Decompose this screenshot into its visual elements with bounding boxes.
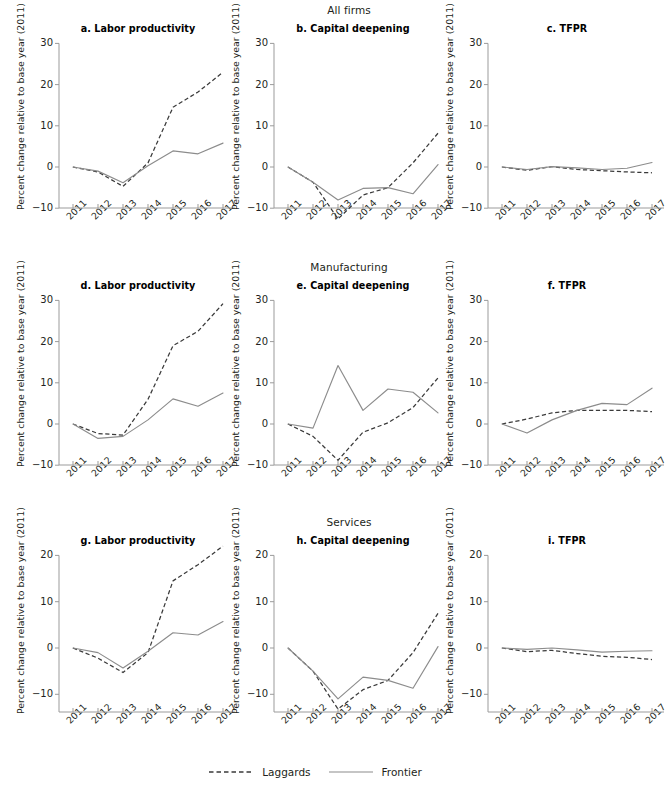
y-tick-label: −10 <box>28 688 53 699</box>
y-axis-label: Percent change relative to base year (20… <box>15 3 26 210</box>
x-tick-label: 2017 <box>643 701 668 726</box>
x-tick-label: 2012 <box>89 701 114 726</box>
y-tick-label: 0 <box>457 642 482 653</box>
x-tick-label: 2015 <box>164 197 189 222</box>
x-tick-label: 2011 <box>493 701 518 726</box>
legend-item-frontier: Frontier <box>327 767 422 778</box>
series-line-frontier <box>502 388 652 433</box>
y-tick-label: 10 <box>28 120 53 131</box>
series-line-laggards <box>73 304 223 435</box>
x-tick-label: 2015 <box>164 701 189 726</box>
y-tick-label: −10 <box>243 688 268 699</box>
x-tick-label: 2013 <box>543 454 568 479</box>
x-tick-label: 2011 <box>64 197 89 222</box>
y-axis-label: Percent change relative to base year (20… <box>15 260 26 467</box>
panel-title: i. TFPR <box>476 535 658 546</box>
series-line-laggards <box>502 410 652 424</box>
y-tick-label: 20 <box>457 336 482 347</box>
x-tick-label: 2014 <box>568 454 593 479</box>
x-tick-label: 2015 <box>593 197 618 222</box>
figure-legend: LaggardsFrontier <box>0 762 629 782</box>
y-tick-label: 0 <box>28 642 53 653</box>
y-tick-label: 20 <box>243 336 268 347</box>
x-tick-label: 2014 <box>354 701 379 726</box>
series-line-frontier <box>502 648 652 652</box>
x-tick-label: 2013 <box>114 197 139 222</box>
x-tick-label: 2014 <box>139 454 164 479</box>
y-tick-label: 10 <box>243 377 268 388</box>
x-tick-label: 2014 <box>139 197 164 222</box>
y-tick-label: −10 <box>28 202 53 213</box>
x-tick-label: 2014 <box>354 454 379 479</box>
x-tick-label: 2012 <box>518 454 543 479</box>
y-tick-label: 20 <box>28 79 53 90</box>
x-tick-label: 2013 <box>329 454 354 479</box>
x-tick-label: 2013 <box>329 701 354 726</box>
y-tick-label: 0 <box>28 418 53 429</box>
y-tick-label: 20 <box>28 549 53 560</box>
x-tick-label: 2016 <box>404 701 429 726</box>
panel-title: g. Labor productivity <box>47 535 229 546</box>
y-axis-label: Percent change relative to base year (20… <box>230 3 241 210</box>
series-line-laggards <box>73 72 223 186</box>
y-tick-label: 10 <box>243 120 268 131</box>
panel-title: c. TFPR <box>476 23 658 34</box>
x-tick-label: 2016 <box>618 197 643 222</box>
dashed-line-icon <box>207 768 255 776</box>
panel-title: b. Capital deepening <box>262 23 444 34</box>
x-tick-label: 2017 <box>429 454 454 479</box>
x-tick-label: 2015 <box>379 197 404 222</box>
x-tick-label: 2017 <box>429 701 454 726</box>
panel-title: f. TFPR <box>476 280 658 291</box>
x-tick-label: 2012 <box>518 701 543 726</box>
y-tick-label: 30 <box>457 294 482 305</box>
row-title-all-firms: All firms <box>234 4 464 16</box>
x-tick-label: 2011 <box>279 197 304 222</box>
y-tick-label: 0 <box>28 161 53 172</box>
row-title-manufacturing: Manufacturing <box>234 261 464 273</box>
y-tick-label: 10 <box>457 596 482 607</box>
x-tick-label: 2014 <box>139 701 164 726</box>
panel-title: e. Capital deepening <box>262 280 444 291</box>
y-tick-label: 10 <box>457 377 482 388</box>
x-tick-label: 2012 <box>304 701 329 726</box>
panel-title: a. Labor productivity <box>47 23 229 34</box>
x-tick-label: 2017 <box>643 454 668 479</box>
x-tick-label: 2012 <box>518 197 543 222</box>
y-tick-label: −10 <box>28 459 53 470</box>
y-tick-label: 0 <box>243 161 268 172</box>
x-tick-label: 2016 <box>404 454 429 479</box>
x-tick-label: 2016 <box>618 701 643 726</box>
x-tick-label: 2017 <box>214 454 239 479</box>
y-tick-label: 20 <box>457 79 482 90</box>
series-line-frontier <box>73 143 223 183</box>
series-line-laggards <box>288 378 438 460</box>
series-line-laggards <box>288 133 438 219</box>
series-line-laggards <box>73 546 223 672</box>
x-tick-label: 2014 <box>568 701 593 726</box>
y-axis-label: Percent change relative to base year (20… <box>230 507 241 714</box>
x-tick-label: 2016 <box>189 454 214 479</box>
panel-title: h. Capital deepening <box>262 535 444 546</box>
y-axis-label: Percent change relative to base year (20… <box>444 507 455 714</box>
x-tick-label: 2016 <box>189 197 214 222</box>
x-tick-label: 2013 <box>114 454 139 479</box>
y-tick-label: −10 <box>457 459 482 470</box>
x-tick-label: 2012 <box>304 454 329 479</box>
y-tick-label: 20 <box>28 336 53 347</box>
legend-label: Frontier <box>382 767 422 778</box>
y-tick-label: 10 <box>28 596 53 607</box>
x-tick-label: 2015 <box>379 454 404 479</box>
